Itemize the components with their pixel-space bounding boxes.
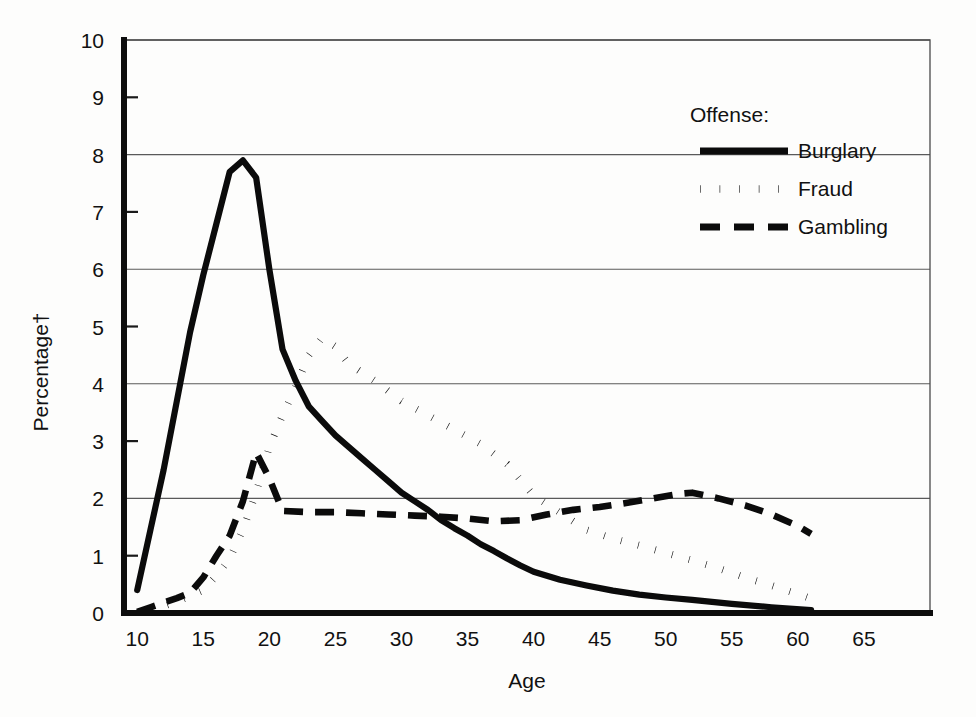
y-tick-label-6: 6 [92,258,104,281]
bold-axis-group [124,40,930,613]
x-tick-label-40: 40 [522,627,545,650]
legend-label-burglary: Burglary [798,139,877,162]
x-tick-label-10: 10 [126,627,149,650]
legend-label-fraud: Fraud [798,177,853,200]
gridline-group [124,40,930,613]
x-tick-label-group: 101520253035404550556065 [126,627,876,650]
plot-border [124,40,930,613]
x-axis-title: Age [508,669,545,692]
legend-label-gambling: Gambling [798,215,888,238]
y-tick-label-9: 9 [92,86,104,109]
y-tick-label-7: 7 [92,201,104,224]
y-tick-label-10: 10 [81,29,104,52]
x-tick-label-60: 60 [786,627,809,650]
y-tick-label-5: 5 [92,316,104,339]
series-gambling [137,453,811,612]
plot-frame [124,40,930,613]
y-tick-label-4: 4 [92,373,104,396]
line-chart: 012345678910 101520253035404550556065 Of… [0,0,976,717]
x-tick-label-30: 30 [390,627,413,650]
legend-title: Offense: [690,103,769,126]
y-tick-label-1: 1 [92,545,104,568]
x-tick-label-55: 55 [720,627,743,650]
x-tick-label-50: 50 [654,627,677,650]
x-tick-label-45: 45 [588,627,611,650]
x-tick-label-65: 65 [852,627,875,650]
bold-axes [124,40,930,613]
x-tick-label-25: 25 [324,627,347,650]
y-tick-label-2: 2 [92,487,104,510]
chart-figure: 012345678910 101520253035404550556065 Of… [0,0,976,717]
x-tick-label-35: 35 [456,627,479,650]
chart-legend: Offense:BurglaryFraudGambling [690,103,888,238]
x-tick-label-15: 15 [192,627,215,650]
x-tick-label-20: 20 [258,627,281,650]
y-tick-label-group: 012345678910 [81,29,105,625]
y-tick-label-8: 8 [92,144,104,167]
y-tick-label-0: 0 [92,602,104,625]
y-tick-label-3: 3 [92,430,104,453]
y-axis-title: Percentage† [29,312,52,431]
